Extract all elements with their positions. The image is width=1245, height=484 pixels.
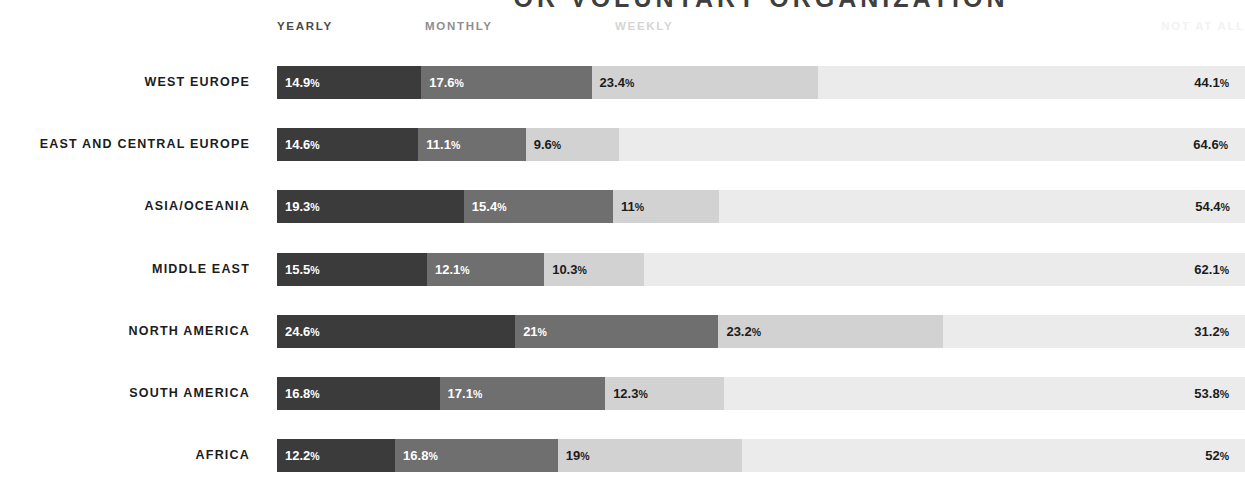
segment-value-label: 24.6%	[285, 315, 320, 348]
bar-track: 14.9%17.6%23.4%44.1%	[277, 66, 1245, 99]
segment-value-label: 53.8%	[1194, 377, 1229, 410]
segment-value-label: 12.2%	[285, 439, 320, 472]
segment-value-label: 23.4%	[600, 66, 635, 99]
row-label: AFRICA	[0, 439, 250, 472]
segment-value-label: 21%	[523, 315, 547, 348]
bar-track: 16.8%17.1%12.3%53.8%	[277, 377, 1245, 410]
chart-row: MIDDLE EAST15.5%12.1%10.3%62.1%	[0, 253, 1245, 286]
bar-segment-monthly[interactable]: 15.4%	[464, 190, 613, 223]
percent-sign: %	[1220, 388, 1229, 400]
segment-value-label: 15.5%	[285, 253, 320, 286]
percent-sign: %	[1220, 326, 1229, 338]
bar-segment-not-at-all[interactable]: 64.6%	[619, 128, 1244, 161]
bar-track: 14.6%11.1%9.6%64.6%	[277, 128, 1245, 161]
bar-segment-monthly[interactable]: 21%	[515, 315, 718, 348]
segment-value-number: 21	[523, 324, 537, 339]
segment-value-label: 44.1%	[1194, 66, 1229, 99]
chart-row: WEST EUROPE14.9%17.6%23.4%44.1%	[0, 66, 1245, 99]
bar-segment-not-at-all[interactable]: 44.1%	[818, 66, 1245, 99]
segment-value-label: 19.3%	[285, 190, 320, 223]
percent-sign: %	[752, 326, 761, 338]
percent-sign: %	[1219, 139, 1228, 151]
segment-value-number: 14.6	[285, 137, 310, 152]
bar-segment-monthly[interactable]: 17.6%	[421, 66, 591, 99]
percent-sign: %	[625, 77, 634, 89]
segment-value-number: 17.6	[429, 75, 454, 90]
row-label: EAST AND CENTRAL EUROPE	[0, 128, 250, 161]
bar-segment-yearly[interactable]: 19.3%	[277, 190, 464, 223]
bar-segment-yearly[interactable]: 24.6%	[277, 315, 515, 348]
segment-value-number: 19	[566, 448, 580, 463]
segment-value-label: 12.1%	[435, 253, 470, 286]
segment-value-number: 11.1	[426, 137, 451, 152]
segment-value-number: 15.4	[472, 199, 497, 214]
segment-value-number: 52	[1205, 448, 1219, 463]
segment-value-number: 19.3	[285, 199, 310, 214]
segment-value-label: 19%	[566, 439, 590, 472]
bar-segment-monthly[interactable]: 11.1%	[418, 128, 525, 161]
percent-sign: %	[310, 139, 319, 151]
bar-segment-weekly[interactable]: 23.2%	[718, 315, 943, 348]
segment-value-number: 17.1	[448, 386, 473, 401]
segment-value-number: 11	[621, 199, 635, 214]
percent-sign: %	[451, 139, 460, 151]
segment-value-label: 62.1%	[1194, 253, 1229, 286]
segment-value-label: 11.1%	[426, 128, 460, 161]
bar-segment-monthly[interactable]: 12.1%	[427, 253, 544, 286]
bar-track: 12.2%16.8%19%52%	[277, 439, 1245, 472]
bar-segment-yearly[interactable]: 15.5%	[277, 253, 427, 286]
percent-sign: %	[538, 326, 547, 338]
row-label: SOUTH AMERICA	[0, 377, 250, 410]
percent-sign: %	[310, 264, 319, 276]
segment-value-label: 10.3%	[552, 253, 587, 286]
bar-segment-weekly[interactable]: 10.3%	[544, 253, 644, 286]
chart-row: ASIA/OCEANIA19.3%15.4%11%54.4%	[0, 190, 1245, 223]
segment-value-label: 31.2%	[1194, 315, 1229, 348]
bar-segment-yearly[interactable]: 16.8%	[277, 377, 440, 410]
bar-segment-weekly[interactable]: 19%	[558, 439, 742, 472]
bar-segment-monthly[interactable]: 16.8%	[395, 439, 558, 472]
segment-value-number: 15.5	[285, 262, 310, 277]
percent-sign: %	[473, 388, 482, 400]
bar-segment-monthly[interactable]: 17.1%	[440, 377, 606, 410]
bar-segment-weekly[interactable]: 9.6%	[526, 128, 619, 161]
segment-value-label: 64.6%	[1193, 128, 1228, 161]
bar-segment-not-at-all[interactable]: 54.4%	[719, 190, 1245, 223]
segment-value-number: 16.8	[403, 448, 428, 463]
percent-sign: %	[1220, 77, 1229, 89]
segment-value-label: 15.4%	[472, 190, 507, 223]
percent-sign: %	[310, 77, 319, 89]
bar-segment-not-at-all[interactable]: 52%	[742, 439, 1245, 472]
bar-segment-not-at-all[interactable]: 53.8%	[724, 377, 1245, 410]
percent-sign: %	[497, 201, 506, 213]
percent-sign: %	[638, 388, 647, 400]
segment-value-number: 24.6	[285, 324, 310, 339]
bar-segment-not-at-all[interactable]: 62.1%	[644, 253, 1245, 286]
bar-track: 24.6%21%23.2%31.2%	[277, 315, 1245, 348]
bar-segment-weekly[interactable]: 11%	[613, 190, 719, 223]
percent-sign: %	[460, 264, 469, 276]
chart-row: SOUTH AMERICA16.8%17.1%12.3%53.8%	[0, 377, 1245, 410]
percent-sign: %	[310, 326, 319, 338]
percent-sign: %	[552, 139, 561, 151]
row-label: MIDDLE EAST	[0, 253, 250, 286]
segment-value-label: 16.8%	[285, 377, 320, 410]
bar-track: 19.3%15.4%11%54.4%	[277, 190, 1245, 223]
segment-value-number: 31.2	[1194, 324, 1219, 339]
bar-segment-not-at-all[interactable]: 31.2%	[943, 315, 1245, 348]
chart-row: NORTH AMERICA24.6%21%23.2%31.2%	[0, 315, 1245, 348]
percent-sign: %	[1220, 264, 1229, 276]
segment-value-number: 54.4	[1195, 199, 1220, 214]
segment-value-number: 9.6	[534, 137, 552, 152]
percent-sign: %	[1220, 450, 1229, 462]
percent-sign: %	[577, 264, 586, 276]
bar-segment-yearly[interactable]: 12.2%	[277, 439, 395, 472]
bar-segment-yearly[interactable]: 14.9%	[277, 66, 421, 99]
bar-segment-weekly[interactable]: 23.4%	[592, 66, 819, 99]
segment-value-label: 14.6%	[285, 128, 320, 161]
bar-segment-weekly[interactable]: 12.3%	[605, 377, 724, 410]
bar-segment-yearly[interactable]: 14.6%	[277, 128, 418, 161]
segment-value-number: 10.3	[552, 262, 577, 277]
segment-value-label: 12.3%	[613, 377, 648, 410]
segment-value-number: 12.2	[285, 448, 310, 463]
